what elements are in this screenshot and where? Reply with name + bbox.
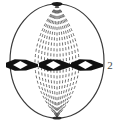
spindle-pole-bottom [53, 117, 62, 120]
figure-label-2: 2 [107, 59, 113, 71]
chromosomes-metaphase-plate [6, 59, 103, 71]
diagram-labels: 2 [107, 59, 113, 71]
spindle-pole-top [52, 2, 63, 6]
figure-root: 2 [0, 0, 118, 123]
cell-metaphase-spindle-diagram: 2 [0, 0, 118, 123]
